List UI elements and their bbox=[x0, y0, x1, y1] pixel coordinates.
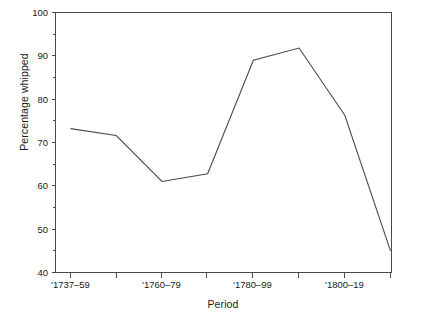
y-axis-title-text: Percentage whipped bbox=[18, 53, 30, 151]
y-axis-title: Percentage whipped bbox=[14, 22, 34, 182]
y-tick-label: 70 bbox=[37, 137, 48, 148]
y-axis-major-ticks bbox=[52, 13, 56, 273]
data-series-line bbox=[71, 48, 391, 251]
x-tick-label: '1780–99 bbox=[233, 279, 272, 290]
x-axis-title-text: Period bbox=[208, 298, 239, 310]
x-tick-label: '1737–59 bbox=[51, 279, 90, 290]
x-axis-ticks bbox=[71, 273, 391, 278]
line-chart-plot: 40 50 60 70 80 90 100 '1737–59 '1760–79 … bbox=[0, 0, 421, 319]
x-axis-tick-labels: '1737–59 '1760–79 '1780–99 '1800–19 bbox=[51, 279, 364, 290]
x-tick-label: '1800–19 bbox=[325, 279, 364, 290]
y-tick-label: 90 bbox=[37, 50, 48, 61]
y-tick-label: 40 bbox=[37, 267, 48, 278]
plot-frame bbox=[56, 13, 392, 273]
y-tick-label: 80 bbox=[37, 94, 48, 105]
x-tick-label: '1760–79 bbox=[142, 279, 181, 290]
y-tick-label: 100 bbox=[32, 7, 48, 18]
y-tick-label: 50 bbox=[37, 224, 48, 235]
y-tick-label: 60 bbox=[37, 180, 48, 191]
y-axis-tick-labels: 40 50 60 70 80 90 100 bbox=[32, 7, 48, 278]
caption-strip bbox=[0, 310, 421, 319]
chart-figure: 40 50 60 70 80 90 100 '1737–59 '1760–79 … bbox=[0, 0, 421, 319]
